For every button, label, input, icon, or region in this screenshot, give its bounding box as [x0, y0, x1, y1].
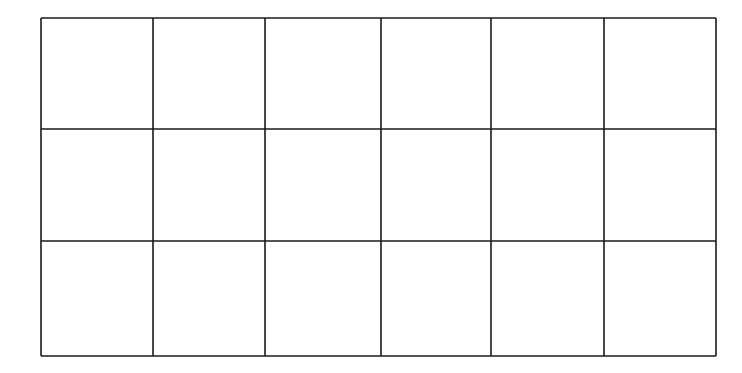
grid-cell [381, 18, 491, 129]
grid-cell [491, 241, 604, 356]
grid-cell [604, 241, 716, 356]
grid-cell [265, 129, 381, 241]
grid-cell [265, 241, 381, 356]
grid-cell [381, 129, 491, 241]
grid-cell [265, 18, 381, 129]
grid-cell [153, 129, 265, 241]
grid-cell [491, 129, 604, 241]
grid-cell [41, 129, 153, 241]
grid-cell [41, 18, 153, 129]
grid-diagram [0, 0, 742, 373]
grid-cell [153, 241, 265, 356]
grid-cell [604, 129, 716, 241]
grid-cell [604, 18, 716, 129]
grid-cell [491, 18, 604, 129]
grid-cell [153, 18, 265, 129]
grid-cell [41, 241, 153, 356]
grid-cell [381, 241, 491, 356]
